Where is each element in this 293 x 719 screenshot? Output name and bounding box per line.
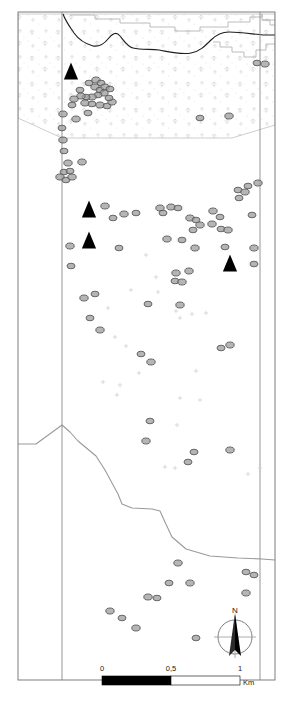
- site-circle-marker: [250, 572, 258, 578]
- site-circle-marker: [190, 449, 198, 455]
- site-circle-marker: [109, 215, 117, 221]
- site-circle-marker: [78, 159, 86, 165]
- faint-cross-marker: [190, 312, 194, 316]
- site-circle-marker: [178, 279, 186, 285]
- site-circle-marker: [80, 295, 88, 301]
- site-circle-marker: [68, 174, 76, 180]
- site-circle-marker: [216, 214, 224, 220]
- site-circle-marker: [242, 590, 250, 596]
- site-circle-marker: [153, 595, 161, 601]
- map-figure: N 0 0,5 1 Km: [0, 0, 293, 719]
- site-circle-marker: [59, 111, 67, 117]
- site-circle-marker: [165, 580, 173, 586]
- site-circle-marker: [60, 148, 68, 154]
- site-circle-marker: [253, 60, 261, 66]
- site-circle-marker: [70, 96, 78, 102]
- compass-needle-right: [235, 613, 241, 656]
- faint-cross-marker: [101, 380, 105, 384]
- site-circle-marker: [146, 418, 154, 424]
- faint-cross-marker: [178, 396, 182, 400]
- faint-cross-marker: [118, 383, 122, 387]
- site-circle-marker: [248, 212, 256, 218]
- site-circle-marker: [76, 87, 84, 93]
- faint-cross-marker: [113, 335, 117, 339]
- site-circle-marker: [66, 168, 74, 174]
- site-circle-marker: [72, 116, 80, 122]
- site-circle-marker: [118, 615, 126, 621]
- site-circle-marker: [147, 359, 155, 365]
- scale-bar-right-half: [171, 676, 240, 685]
- site-circle-marker: [254, 180, 262, 186]
- site-circle-marker: [242, 569, 250, 575]
- scale-unit-label: Km: [243, 678, 254, 687]
- faint-cross-marker: [144, 253, 148, 257]
- site-circle-marker: [241, 189, 249, 195]
- site-circle-marker: [244, 183, 252, 189]
- faint-cross-marker: [178, 316, 182, 320]
- scale-bar-left-half: [102, 676, 171, 685]
- faint-cross-marker: [246, 472, 250, 476]
- faint-cross-marker: [175, 423, 179, 427]
- site-circle-marker: [58, 125, 66, 131]
- site-circle-marker: [250, 245, 258, 251]
- site-circle-marker: [88, 101, 96, 107]
- site-circle-marker: [132, 210, 140, 216]
- site-circle-marker: [144, 301, 152, 307]
- site-triangle-4: [223, 255, 237, 272]
- river-boundary-line: [18, 425, 275, 560]
- site-circle-marker: [159, 210, 167, 216]
- compass-needle-left: [229, 613, 235, 656]
- site-circle-marker: [84, 110, 92, 116]
- site-circle-marker: [163, 236, 171, 242]
- faint-cross-marker: [194, 369, 198, 373]
- site-triangle-3: [82, 232, 96, 249]
- site-circle-marker: [192, 635, 200, 641]
- site-circle-marker: [226, 447, 234, 453]
- site-circle-marker: [137, 351, 145, 357]
- site-circle-marker: [250, 261, 258, 267]
- north-arrow: N: [214, 606, 256, 658]
- site-circle-marker: [67, 263, 75, 269]
- site-circle-marker: [142, 438, 150, 444]
- faint-cross-marker: [137, 371, 141, 375]
- site-circle-marker: [132, 625, 140, 631]
- site-circle-marker: [184, 459, 192, 465]
- site-circle-marker: [221, 244, 229, 250]
- site-circle-marker: [235, 195, 243, 201]
- site-circle-marker: [66, 243, 74, 249]
- site-circle-marker: [217, 345, 225, 351]
- faint-cross-marker: [173, 466, 177, 470]
- site-circle-marker: [191, 245, 199, 251]
- site-circle-marker: [86, 315, 94, 321]
- site-circle-marker: [174, 205, 182, 211]
- site-circle-marker: [144, 594, 152, 600]
- site-circle-marker: [105, 95, 113, 101]
- site-circle-marker: [196, 115, 204, 121]
- faint-cross-marker: [106, 306, 110, 310]
- site-circle-markers: [56, 60, 269, 641]
- site-circle-marker: [96, 327, 104, 333]
- site-triangle-2: [82, 201, 96, 218]
- site-circle-marker: [120, 211, 128, 217]
- site-circle-marker: [178, 237, 186, 243]
- faint-cross-marker: [204, 311, 208, 315]
- site-circle-marker: [209, 208, 217, 214]
- site-circle-marker: [59, 137, 67, 143]
- faint-cross-marker: [174, 309, 178, 313]
- scale-tick-label-1: 1: [238, 664, 242, 673]
- site-circle-marker: [261, 61, 269, 67]
- site-circle-marker: [224, 227, 232, 233]
- site-circle-marker: [68, 102, 76, 108]
- scale-tick-label-half: 0,5: [166, 664, 176, 673]
- faint-cross-marker: [163, 465, 167, 469]
- faint-cross-marker: [129, 288, 133, 292]
- faint-cross-marker: [258, 466, 262, 470]
- site-circle-marker: [101, 203, 109, 209]
- site-circle-marker: [226, 342, 234, 348]
- scale-tick-label-0: 0: [100, 664, 104, 673]
- site-circle-marker: [172, 270, 180, 276]
- site-circle-marker: [185, 268, 193, 274]
- faint-cross-marker: [198, 398, 202, 402]
- site-circle-marker: [91, 291, 99, 297]
- scale-bar: 0 0,5 1 Km: [100, 664, 254, 687]
